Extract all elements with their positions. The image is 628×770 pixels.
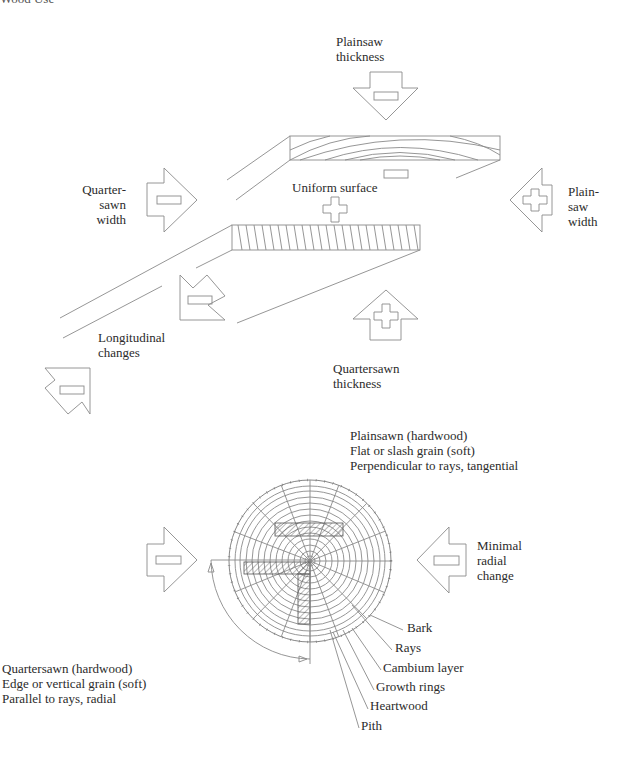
quartersawn-thickness-arrow <box>353 290 418 340</box>
radial-arrow <box>417 527 466 593</box>
label-quartersawn-description: Quartersawn (hardwood) Edge or vertical … <box>2 661 146 706</box>
quartersawn-cut-horizontal <box>244 562 310 574</box>
minus-icon <box>188 296 212 304</box>
minus-icon <box>157 196 181 204</box>
wood-movement-diagram <box>0 0 628 770</box>
label-longitudinal-changes: Longitudinal changes <box>98 330 165 360</box>
minus-icon <box>384 170 408 178</box>
longitudinal-end-arrow <box>45 368 90 414</box>
quartersawn-board <box>60 218 420 338</box>
label-cambium-layer: Cambium layer <box>383 660 464 675</box>
label-plainsaw-width: Plain- saw width <box>568 184 599 229</box>
plainsawn-cut <box>275 523 343 536</box>
label-uniform-surface: Uniform surface <box>292 180 378 195</box>
plainsaw-thickness-arrow <box>353 72 418 120</box>
plus-icon <box>323 197 347 222</box>
label-bark: Bark <box>407 620 432 635</box>
label-plainsawn-description: Plainsawn (hardwood) Flat or slash grain… <box>350 428 518 473</box>
label-growth-rings: Growth rings <box>376 679 445 694</box>
minus-icon <box>60 386 84 394</box>
minus-icon <box>156 556 181 564</box>
minus-icon <box>374 92 398 100</box>
label-pith: Pith <box>361 718 382 733</box>
quartersawn-width-arrow <box>147 168 197 232</box>
label-rays: Rays <box>395 640 421 655</box>
minus-icon <box>434 556 459 565</box>
plus-icon <box>374 304 398 328</box>
longitudinal-arrow <box>180 275 225 320</box>
label-quartersawn-width: Quarter- sawn width <box>78 182 126 227</box>
log-cross-section <box>208 478 403 728</box>
quartersawn-arrow <box>147 527 197 592</box>
label-minimal-radial-change: Minimal radial change <box>477 538 522 583</box>
plus-icon <box>523 189 547 211</box>
label-quartersawn-thickness: Quartersawn thickness <box>333 361 399 391</box>
quartersawn-cut-vertical <box>298 574 310 624</box>
label-plainsaw-thickness: Plainsaw thickness <box>336 34 384 64</box>
label-heartwood: Heartwood <box>370 698 428 713</box>
plainsaw-width-arrow <box>510 168 552 232</box>
